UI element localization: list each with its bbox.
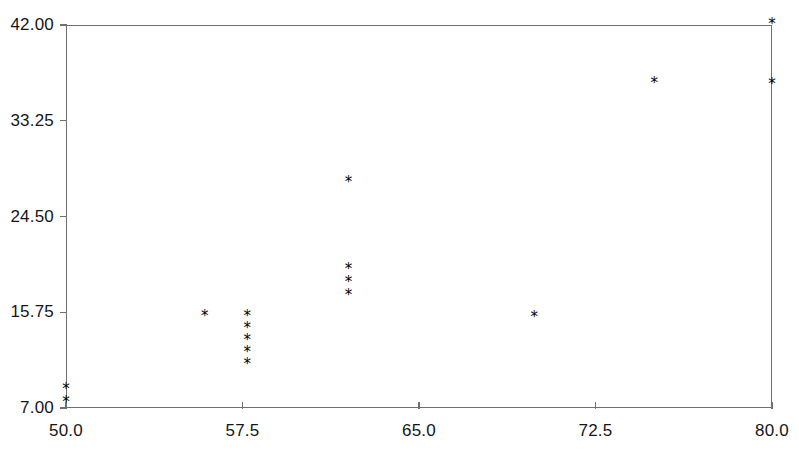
data-point-marker: * xyxy=(528,311,541,324)
x-axis-tick xyxy=(771,402,772,409)
y-axis-tick xyxy=(60,120,67,121)
data-point-marker: * xyxy=(766,78,779,91)
y-axis-tick xyxy=(60,24,67,25)
x-axis-tick xyxy=(242,402,243,409)
data-point-marker: * xyxy=(198,310,211,323)
x-axis-tick-label: 80.0 xyxy=(712,422,799,439)
data-point-marker: * xyxy=(60,396,73,409)
y-axis-tick-label: 42.00 xyxy=(10,16,54,33)
y-axis-tick-label: 33.25 xyxy=(10,112,54,129)
y-axis-tick xyxy=(60,312,67,313)
x-axis-tick xyxy=(595,402,596,409)
x-axis-tick-label: 57.5 xyxy=(183,422,303,439)
data-point-marker: * xyxy=(648,77,661,90)
y-axis-tick xyxy=(60,216,67,217)
x-axis-tick xyxy=(418,402,419,409)
y-axis-tick-label: 7.00 xyxy=(20,399,54,416)
scatter-plot-figure: 7.0015.7524.5033.2542.00 50.057.565.072.… xyxy=(0,0,799,476)
y-axis-tick-label: 15.75 xyxy=(10,303,54,320)
x-axis-tick-label: 65.0 xyxy=(359,422,479,439)
y-axis-tick-label: 24.50 xyxy=(10,208,54,225)
x-axis-tick-label: 72.5 xyxy=(536,422,656,439)
data-point-marker: * xyxy=(766,18,779,31)
plot-axes-frame xyxy=(66,25,772,408)
data-point-marker: * xyxy=(342,289,355,302)
data-point-marker: * xyxy=(241,358,254,371)
data-point-marker: * xyxy=(342,176,355,189)
x-axis-tick-label: 50.0 xyxy=(6,422,126,439)
